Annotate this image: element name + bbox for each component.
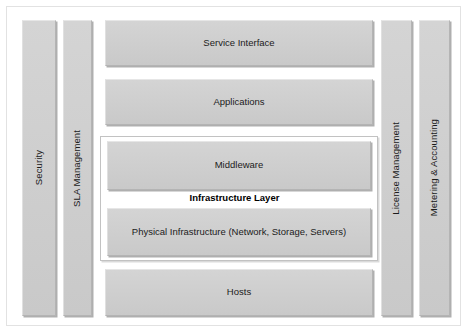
pillar-security-label: Security [34,150,44,185]
layer-hosts-label: Hosts [227,287,251,297]
pillar-sla-management[interactable]: SLA Management [63,20,92,316]
pillar-security[interactable]: Security [22,20,56,316]
pillar-metering-accounting[interactable]: Metering & Accounting [419,20,450,316]
layer-service-interface[interactable]: Service Interface [105,20,373,66]
pillar-metering-accounting-label: Metering & Accounting [429,119,439,216]
architecture-diagram: Security SLA Management Service Interfac… [0,0,469,334]
layer-applications-label: Applications [213,97,264,107]
layer-applications[interactable]: Applications [105,79,373,125]
layer-hosts[interactable]: Hosts [105,269,373,316]
layer-middleware-label: Middleware [215,160,264,170]
pillar-license-management-label: License Management [391,122,401,215]
layer-physical-infrastructure[interactable]: Physical Infrastructure (Network, Storag… [107,208,371,256]
pillar-license-management[interactable]: License Management [381,20,412,316]
layer-physical-infrastructure-label: Physical Infrastructure (Network, Storag… [132,227,346,237]
layer-middleware[interactable]: Middleware [107,141,371,190]
layer-service-interface-label: Service Interface [203,38,274,48]
